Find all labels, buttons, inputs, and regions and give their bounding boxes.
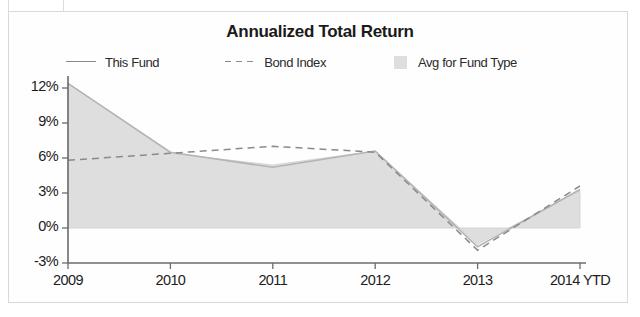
y-axis-tick-label: 6% [12,148,58,164]
x-axis-tick-label: 2010 [125,272,215,288]
area-fill-avg-for-fund-type [68,83,580,244]
chart-page: Annualized Total Return This Fund Bond I… [0,0,640,317]
series-avg-for-fund-type-area [68,83,580,244]
x-axis-tick-label: 2012 [330,272,420,288]
x-axis-tick-label: 2011 [228,272,318,288]
x-axis-tick-label: 2013 [433,272,523,288]
y-axis-tick-label: 3% [12,183,58,199]
y-axis-tick-label: 12% [12,78,58,94]
chart-plot-area [0,0,640,317]
y-axis-tick-label: 0% [12,218,58,234]
y-axis-tick-label: -3% [12,253,58,269]
x-axis-tick-label: 2009 [23,272,113,288]
y-axis-tick-label: 9% [12,113,58,129]
x-axis-tick-label: 2014 YTD [535,272,625,288]
